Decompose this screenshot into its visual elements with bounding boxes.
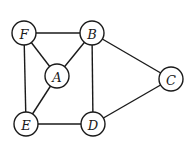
graph-diagram: FBACED	[0, 0, 191, 146]
node-label: F	[18, 27, 29, 42]
node-c: C	[159, 67, 183, 91]
edge-d-c	[93, 79, 171, 124]
edge-f-e	[24, 33, 26, 124]
edge-b-d	[92, 33, 93, 124]
node-a: A	[45, 64, 69, 88]
node-label: D	[87, 118, 99, 133]
node-b: B	[80, 21, 104, 45]
node-label: A	[51, 70, 61, 85]
node-f: F	[12, 21, 36, 45]
edge-b-c	[92, 33, 171, 79]
node-d: D	[81, 112, 105, 136]
nodes: FBACED	[12, 21, 183, 136]
node-label: B	[86, 27, 97, 42]
node-label: E	[20, 118, 31, 133]
node-e: E	[14, 112, 38, 136]
node-label: C	[166, 73, 176, 88]
